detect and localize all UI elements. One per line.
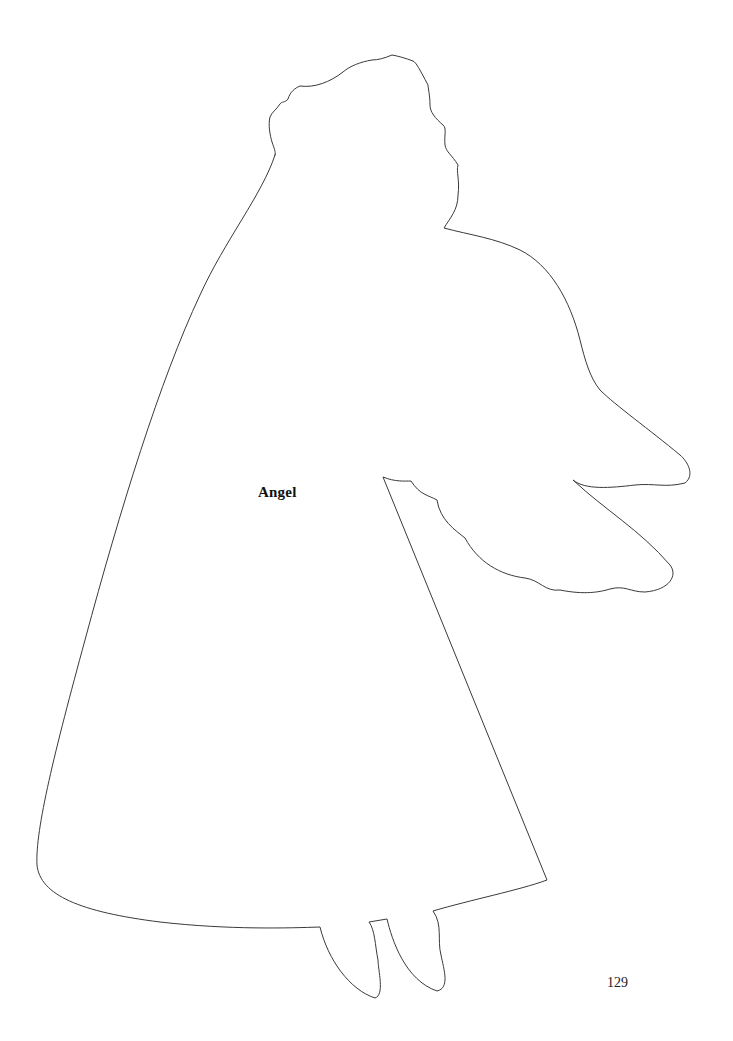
figure-label: Angel (258, 484, 297, 501)
page-number: 129 (607, 975, 628, 991)
template-page: Angel 129 (0, 0, 733, 1041)
angel-outline-icon (0, 0, 733, 1041)
angel-silhouette (37, 55, 690, 998)
